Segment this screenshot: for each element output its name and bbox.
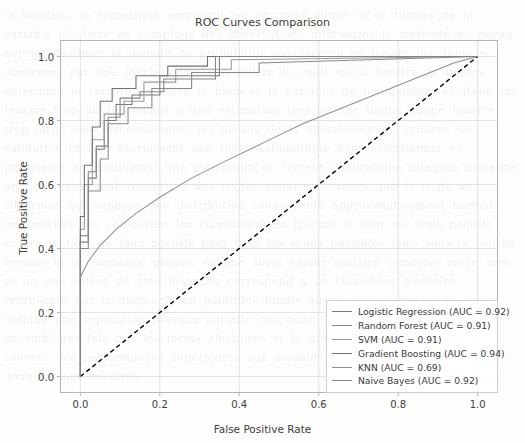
y-tick-label: 0.8 (26, 115, 54, 126)
y-tick-label: 0.2 (26, 307, 54, 318)
x-tick-label: 0.2 (152, 399, 168, 410)
x-tick-label: 0.4 (231, 399, 247, 410)
legend-line-swatch (332, 353, 352, 354)
legend-item-label: Logistic Regression (AUC = 0.92) (358, 306, 510, 317)
matplotlib-figure: ROC Curves Comparison 0.00.20.40.60.81.0… (0, 0, 525, 443)
y-tick-label: 0.4 (26, 243, 54, 254)
legend-line-swatch (332, 380, 352, 381)
x-tick-label: 0.6 (311, 399, 327, 410)
legend-item-label: Naive Bayes (AUC = 0.92) (358, 375, 478, 386)
y-tick-label: 0.6 (26, 179, 54, 190)
legend-item-2: SVM (AUC = 0.91) (332, 333, 492, 347)
legend-item-3: Gradient Boosting (AUC = 0.94) (332, 346, 492, 360)
legend-item-label: KNN (AUC = 0.69) (358, 362, 441, 373)
legend-item-label: Random Forest (AUC = 0.91) (358, 320, 491, 331)
chart-legend: Logistic Regression (AUC = 0.92)Random F… (326, 300, 498, 393)
legend-line-swatch (332, 325, 352, 326)
x-tick-label: 0.0 (72, 399, 88, 410)
y-tick-label: 1.0 (26, 51, 54, 62)
legend-item-1: Random Forest (AUC = 0.91) (332, 319, 492, 333)
legend-line-swatch (332, 339, 352, 340)
roc-chart-figure: la fonction de repartition empirique en … (0, 0, 525, 443)
x-tick-label: 0.8 (390, 399, 406, 410)
legend-item-5: Naive Bayes (AUC = 0.92) (332, 374, 492, 388)
legend-item-0: Logistic Regression (AUC = 0.92) (332, 305, 492, 319)
legend-item-4: KNN (AUC = 0.69) (332, 360, 492, 374)
legend-item-label: Gradient Boosting (AUC = 0.94) (358, 348, 505, 359)
legend-line-swatch (332, 311, 352, 312)
y-axis-label: True Positive Rate (17, 138, 29, 278)
x-tick-label: 1.0 (470, 399, 486, 410)
legend-line-swatch (332, 367, 352, 368)
x-axis-label: False Positive Rate (0, 423, 525, 435)
roc-curve-series-4 (80, 57, 477, 278)
y-tick-label: 0.0 (26, 371, 54, 382)
legend-item-label: SVM (AUC = 0.91) (358, 334, 442, 345)
